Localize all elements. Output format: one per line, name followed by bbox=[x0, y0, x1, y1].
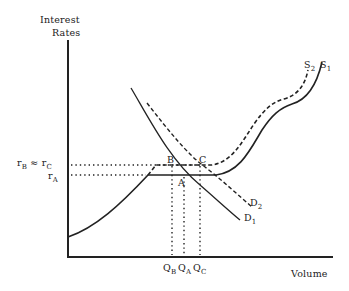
diagram-canvas bbox=[0, 0, 349, 291]
quantity-label-qa: QA bbox=[178, 263, 191, 276]
curve-label-d2: D2 bbox=[250, 198, 262, 211]
quantity-label-qc: QC bbox=[193, 263, 207, 276]
x-axis-label: Volume bbox=[291, 269, 328, 279]
point-label-c: C bbox=[199, 155, 206, 165]
demand-curve-d1 bbox=[131, 88, 240, 220]
point-label-a: A bbox=[178, 178, 185, 188]
curve-label-s1: S1 bbox=[320, 60, 331, 73]
rate-label-rb-rc: rB ≈ rC bbox=[17, 158, 52, 171]
curve-label-d1: D1 bbox=[244, 213, 256, 226]
rate-label-ra: rA bbox=[48, 171, 58, 184]
quantity-label-qb: QB bbox=[163, 263, 176, 276]
y-axis-label-line1: Interest bbox=[40, 15, 80, 25]
supply-curve-s1 bbox=[68, 62, 322, 237]
y-axis-label-line2: Rates bbox=[52, 28, 80, 38]
point-label-b: B bbox=[167, 155, 174, 165]
curve-label-s2: S2 bbox=[304, 60, 315, 73]
